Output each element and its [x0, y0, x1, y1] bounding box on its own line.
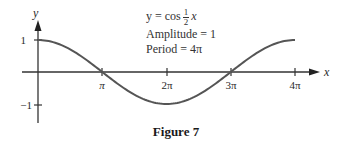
figure-caption: Figure 7: [0, 124, 352, 140]
figure: y x 1 −1 π 2π 3π 4π y = cos12x Amplitude…: [0, 0, 352, 152]
equation: y = cos12x: [146, 8, 216, 27]
x-tick-label-3pi: 3π: [225, 79, 237, 91]
equation-prefix: y = cos: [146, 9, 181, 23]
graph-annotation: y = cos12x Amplitude = 1 Period = 4π: [146, 8, 216, 57]
fraction-half: 12: [183, 8, 190, 27]
x-tick-label-2pi: 2π: [161, 79, 173, 91]
x-tick-label-4pi: 4π: [289, 79, 301, 91]
y-tick-label-1: 1: [21, 34, 27, 46]
x-axis-arrow-icon: [309, 69, 320, 76]
x-tick-label-pi: π: [99, 79, 105, 91]
amplitude-text: Amplitude = 1: [146, 27, 216, 42]
y-axis-arrow-icon: [35, 20, 42, 31]
y-tick-label-neg1: −1: [20, 99, 32, 111]
fraction-denominator: 2: [183, 18, 190, 27]
period-text: Period = 4π: [146, 42, 216, 57]
y-axis-label: y: [32, 6, 39, 20]
equation-variable: x: [191, 9, 196, 23]
x-axis-label: x: [323, 65, 330, 79]
